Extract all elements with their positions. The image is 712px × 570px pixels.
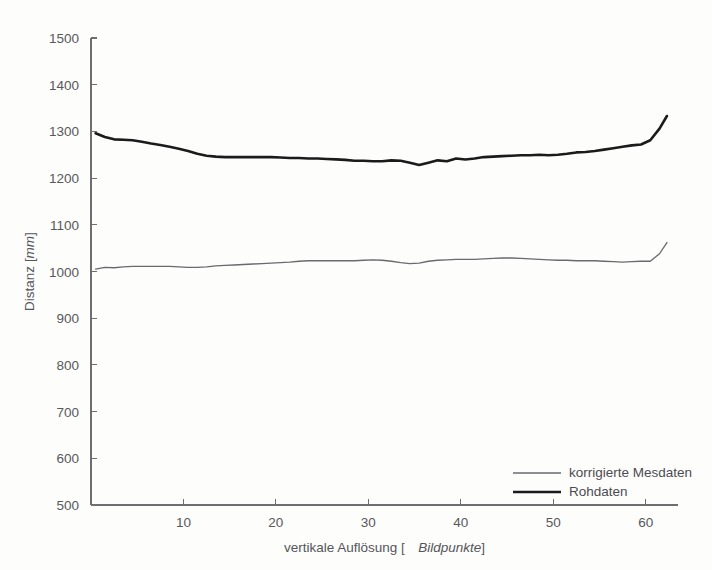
y-tick-label: 1000 (49, 265, 79, 280)
chart-figure: 500600700800900100011001200130014001500 … (0, 0, 712, 570)
y-tick-label: 1300 (49, 124, 79, 139)
series-line-korrigierte-mesdaten (96, 243, 667, 270)
y-tick-label: 600 (56, 451, 79, 466)
x-tick-label: 40 (453, 515, 468, 530)
y-tick-label: 800 (56, 358, 79, 373)
y-tick-label: 1500 (49, 31, 79, 46)
line-chart: 500600700800900100011001200130014001500 … (0, 0, 712, 570)
chart-series-group (96, 116, 667, 269)
y-tick-label: 1100 (50, 218, 79, 233)
y-tick-label: 500 (56, 498, 79, 513)
x-axis-tick-labels: 102030405060 (176, 515, 653, 530)
x-tick-label: 20 (268, 515, 283, 530)
y-tick-label: 1400 (49, 78, 79, 93)
legend-label-rohdaten: Rohdaten (569, 484, 628, 499)
y-tick-label: 900 (56, 311, 79, 326)
y-tick-label: 700 (56, 405, 79, 420)
x-tick-label: 50 (546, 515, 561, 530)
y-tick-label: 1200 (49, 171, 79, 186)
chart-legend: korrigierte MesdatenRohdaten (513, 465, 692, 499)
series-line-rohdaten (96, 116, 667, 165)
x-tick-label: 10 (176, 515, 191, 530)
y-axis-title: Distanz [mm] (22, 232, 37, 311)
x-axis-title: vertikale Auflösung [ Bildpunkte] (284, 540, 485, 555)
legend-label-korrigierte-mesdaten: korrigierte Mesdaten (569, 465, 692, 480)
x-tick-label: 30 (361, 515, 376, 530)
x-tick-label: 60 (638, 515, 653, 530)
chart-axes (91, 38, 678, 505)
y-axis-tick-labels: 500600700800900100011001200130014001500 (49, 31, 79, 513)
